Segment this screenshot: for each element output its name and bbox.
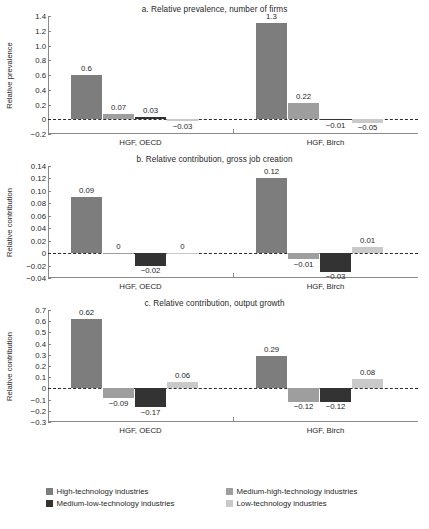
bar-value-label: −0.02 [141, 266, 161, 275]
y-tick-label: 0.8 [35, 56, 46, 65]
legend-swatch-medhigh [226, 488, 233, 495]
bar-value-label: 0.62 [79, 308, 94, 317]
y-tick-label: 1.2 [35, 26, 46, 35]
bar [256, 178, 287, 253]
bar [71, 75, 102, 119]
bar-value-label: 0.06 [175, 371, 190, 380]
bar-value-label: 0.09 [79, 186, 94, 195]
y-tick-label: 0.6 [35, 317, 46, 326]
y-tick-label: −0.2 [31, 406, 46, 415]
y-tick-label: 0.3 [35, 350, 46, 359]
y-tick-label: 0.1 [35, 373, 46, 382]
panel-c-title: c. Relative contribution, output growth [0, 294, 429, 310]
legend-swatch-high [46, 488, 53, 495]
bar-value-label: −0.03 [326, 272, 346, 281]
bar [352, 247, 383, 253]
y-tick-label: 0.6 [35, 71, 46, 80]
bar-value-label: 1.3 [266, 12, 277, 21]
bar-value-label: −0.01 [326, 121, 346, 130]
y-tick-label: 0.4 [35, 339, 46, 348]
panel-c-plot-area: 0.62−0.09−0.170.06HGF, OECD0.29−0.12−0.1… [48, 310, 418, 422]
figure-relative-prevalence-contribution: a. Relative prevalence, number of firms … [0, 0, 429, 529]
y-tick-label: 0.08 [31, 199, 46, 208]
y-tick-mark [48, 422, 51, 423]
bar [320, 388, 351, 401]
bar-value-label: 0 [180, 242, 184, 251]
panel-a-title: a. Relative prevalence, number of firms [0, 0, 429, 16]
y-tick-label: 0.2 [35, 100, 46, 109]
bar-value-label: −0.17 [141, 408, 161, 417]
x-category-label: HGF, OECD [119, 282, 161, 291]
x-category-label: HGF, OECD [119, 138, 161, 147]
bar-value-label: 0.01 [360, 236, 375, 245]
legend-item-medhigh[interactable]: Medium-high-technology industries [226, 487, 406, 496]
legend-label: Medium-low-technology industries [57, 499, 175, 508]
bar [135, 253, 166, 265]
y-tick-label: −0.04 [26, 274, 46, 283]
y-tick-label: −0.2 [31, 130, 46, 139]
y-tick-label: 0.7 [35, 306, 46, 315]
bar [71, 319, 102, 388]
panel-a-y-ticks: 1.41.21.00.80.60.40.20−0.2 [4, 16, 48, 134]
y-axis-line [48, 166, 49, 278]
y-tick-label: −0.02 [26, 261, 46, 270]
bar-value-label: −0.09 [109, 399, 129, 408]
bar-value-label: 0.6 [81, 64, 92, 73]
group-separator [233, 417, 234, 422]
bar-value-label: 0 [116, 242, 120, 251]
x-category-label: HGF, OECD [119, 426, 161, 435]
bar [352, 119, 383, 123]
y-tick-label: 0.04 [31, 224, 46, 233]
panel-c-y-ticks: 0.70.60.50.40.30.20.10−0.1−0.2−0.3 [4, 310, 48, 422]
bar [288, 103, 319, 119]
y-tick-label: 0.10 [31, 186, 46, 195]
legend-row: Medium-low-technology industriesLow-tech… [0, 499, 429, 508]
x-category-label: HGF, Birch [307, 138, 345, 147]
bar [352, 379, 383, 388]
legend-label: Medium-high-technology industries [237, 487, 358, 496]
panel-b-plot: Relative contribution0.140.120.100.080.0… [0, 166, 429, 294]
legend-item-medlow[interactable]: Medium-low-technology industries [24, 499, 226, 508]
bar-value-label: −0.12 [326, 402, 346, 411]
bar-value-label: 0.08 [360, 368, 375, 377]
y-axis-line [48, 16, 49, 134]
x-category-label: HGF, Birch [307, 282, 345, 291]
bar [167, 253, 198, 254]
panel-b: b. Relative contribution, gross job crea… [0, 150, 429, 294]
chart-legend: High-technology industriesMedium-high-te… [0, 487, 429, 511]
bar-value-label: −0.12 [294, 402, 314, 411]
bar-value-label: −0.01 [294, 260, 314, 269]
y-tick-label: −0.3 [31, 418, 46, 427]
legend-label: Low-technology industries [237, 499, 327, 508]
panel-c: c. Relative contribution, output growth … [0, 294, 429, 438]
y-tick-label: 0.5 [35, 328, 46, 337]
bar-value-label: −0.05 [358, 123, 378, 132]
bar [103, 388, 134, 398]
bar-value-label: 0.07 [111, 103, 126, 112]
bar-value-label: −0.03 [173, 122, 193, 131]
legend-label: High-technology industries [57, 487, 149, 496]
bar-value-label: 0.12 [264, 167, 279, 176]
bar [288, 253, 319, 259]
legend-item-high[interactable]: High-technology industries [24, 487, 226, 496]
panel-b-y-ticks: 0.140.120.100.080.060.040.020−0.02−0.04 [4, 166, 48, 278]
bar [320, 253, 351, 272]
panel-a-plot: Relative prevalence1.41.21.00.80.60.40.2… [0, 16, 429, 150]
y-tick-mark [48, 278, 51, 279]
panel-c-plot: Relative contribution0.70.60.50.40.30.20… [0, 310, 429, 438]
panel-b-plot-area: 0.090−0.020HGF, OECD0.12−0.01−0.030.01HG… [48, 166, 418, 278]
bar [256, 23, 287, 119]
bar [256, 356, 287, 388]
group-separator [233, 273, 234, 278]
bar-value-label: 0.29 [264, 345, 279, 354]
y-tick-label: 0 [42, 384, 46, 393]
y-tick-label: 0 [42, 115, 46, 124]
y-tick-label: 0.2 [35, 362, 46, 371]
bar-value-label: 0.03 [143, 106, 158, 115]
bar [135, 388, 166, 407]
legend-item-low[interactable]: Low-technology industries [226, 499, 406, 508]
legend-swatch-low [226, 500, 233, 507]
bar [103, 114, 134, 119]
legend-swatch-medlow [46, 500, 53, 507]
panel-a-plot-area: 0.60.070.03−0.03HGF, OECD1.30.22−0.01−0.… [48, 16, 418, 134]
